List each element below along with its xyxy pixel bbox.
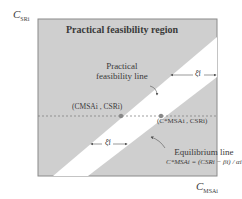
x-axis-label: CMSAi (196, 181, 218, 194)
point-equilibrium-label: (C*MSAi , CSRi) (157, 118, 207, 125)
y-axis-label: CSRi (13, 9, 29, 22)
xi-lower-label: ξ̄i (105, 139, 111, 147)
point-practical-label: (CMSAi , CSRi) (72, 103, 122, 111)
practical-feasibility-line-label: Practical feasibility line (96, 61, 148, 81)
xi-upper-label: ξ̄i (195, 70, 201, 78)
point-practical (119, 114, 123, 118)
equilibrium-formula: C*MSAi = (CSRi − βi) / αi (166, 157, 242, 167)
equilibrium-line-label: Equilibrium line C*MSAi = (CSRi − βi) / … (166, 147, 242, 167)
region-title: Practical feasibility region (66, 25, 178, 35)
